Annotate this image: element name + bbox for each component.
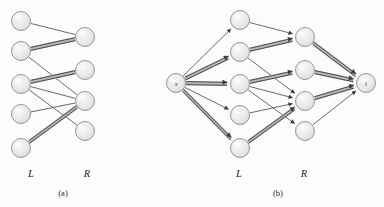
edge-b-R1-t [313,42,356,74]
edge-b-R2-t-halo [315,72,354,80]
edge-b-L3-R4 [248,90,294,124]
node-specular-highlight [79,31,86,36]
edge-b-s-L3-halo [186,83,227,84]
node-specular-highlight [234,78,241,83]
edge-b-L5-R3-halo [248,109,294,143]
edge-b-R1-t-halo [313,43,356,75]
node-specular-highlight [299,125,306,130]
edge-b-L4-R3 [250,104,293,113]
edge-b-L2-R1-halo [250,40,293,50]
node-circle [76,122,95,141]
node-circle [76,92,95,111]
node-circle [231,75,250,94]
node-specular-highlight [299,31,306,36]
panel-b-column-label-L: L [235,168,242,179]
node-b-s[interactable]: s [167,74,186,93]
node-specular-highlight [234,46,241,51]
node-circle [231,11,250,30]
edge-b-L1-R1 [250,23,293,34]
node-specular-highlight [299,64,306,69]
panel-a-column-label-R: R [83,168,91,179]
node-circle [296,28,315,47]
edge-a-L1-R1 [31,23,76,34]
node-a-R2[interactable] [76,61,95,80]
panel-a-column-label-L: L [27,168,34,179]
node-specular-highlight [15,78,22,83]
node-circle [231,106,250,125]
node-b-L5[interactable] [231,139,250,158]
node-specular-highlight [234,14,241,19]
node-specular-highlight [299,95,306,100]
edge-b-R3-t-b [315,88,354,100]
panel-b-column-label-R: R [300,168,308,179]
node-circle [12,105,31,124]
node-specular-highlight [15,108,22,113]
figure-canvas: st LR(a)LR(b) [0,0,384,207]
figure-container: st LR(a)LR(b) (a) L R (b) L R s t [0,0,384,207]
node-a-L2[interactable] [12,42,31,61]
node-circle [12,12,31,31]
node-a-L5[interactable] [12,139,31,158]
node-a-R1[interactable] [76,28,95,47]
node-specular-highlight [234,142,241,147]
node-b-L1[interactable] [231,11,250,30]
node-specular-highlight [15,45,22,50]
node-a-R4[interactable] [76,122,95,141]
node-b-L2[interactable] [231,43,250,62]
edge-b-L3-R2-halo [250,73,293,82]
edge-b-s-L5 [183,89,231,138]
edge-b-s-L3-b [186,85,227,86]
node-circle [76,28,95,47]
node-specular-highlight [79,125,86,130]
node-specular-highlight [15,142,22,147]
node-specular-highlight [234,109,241,114]
node-label-s: s [175,80,178,88]
node-circle [12,139,31,158]
node-specular-highlight [79,95,86,100]
edge-b-R3-t [315,85,354,97]
node-b-R2[interactable] [296,61,315,80]
node-a-R3[interactable] [76,92,95,111]
panel-a-caption: (a) [58,188,68,198]
node-circle [296,61,315,80]
edge-b-s-L3 [186,82,227,83]
edge-b-s-L2-b [185,59,228,80]
edge-a-L5-R3-halo [29,107,77,142]
node-circle [296,122,315,141]
edge-a-L5-R3-b [29,108,77,143]
node-a-L4[interactable] [12,105,31,124]
node-b-t[interactable]: t [357,74,376,93]
node-circle [76,61,95,80]
node-b-R4[interactable] [296,122,315,141]
node-b-R3[interactable] [296,92,315,111]
edge-b-s-L5-halo [183,90,231,139]
panel-b-caption: (b) [273,188,283,198]
node-circle [296,92,315,111]
edge-a-L3-R2-halo [31,72,75,82]
node-b-R1[interactable] [296,28,315,47]
node-a-L3[interactable] [12,75,31,94]
node-b-L4[interactable] [231,106,250,125]
node-specular-highlight [15,15,22,20]
edge-a-L2-R1-halo [31,39,75,49]
edge-b-s-L2 [185,56,228,77]
node-a-L1[interactable] [12,12,31,31]
labels-layer: LR(a)LR(b) [27,168,308,198]
node-circle [231,139,250,158]
node-circle [12,42,31,61]
node-specular-highlight [79,64,86,69]
edge-b-R3-t-halo [315,87,354,99]
node-circle [12,75,31,94]
node-b-L3[interactable] [231,75,250,94]
edge-b-L5-R3-b [248,110,294,144]
node-circle [231,43,250,62]
